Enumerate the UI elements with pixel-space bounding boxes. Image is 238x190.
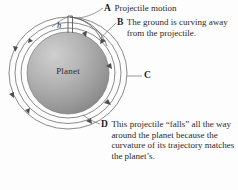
caption-d: D This projectile “falls” all the way ar… xyxy=(101,119,237,161)
caption-a: A Projectile motion xyxy=(104,3,236,14)
caption-b: B The ground is curving away from the pr… xyxy=(117,17,237,38)
caption-b-letter: B xyxy=(117,17,123,28)
caption-a-letter: A xyxy=(104,3,111,14)
leader-line-a xyxy=(78,8,103,18)
caption-c: C xyxy=(144,70,204,81)
planet-label: Planet xyxy=(40,66,96,76)
caption-d-letter: D xyxy=(101,119,108,130)
caption-b-text: The ground is curving away from the proj… xyxy=(127,17,237,38)
caption-c-letter: C xyxy=(144,70,151,81)
height-label: h xyxy=(57,20,61,30)
caption-a-text: Projectile motion xyxy=(114,3,176,14)
caption-d-text: This projectile “falls” all the way arou… xyxy=(111,119,237,161)
